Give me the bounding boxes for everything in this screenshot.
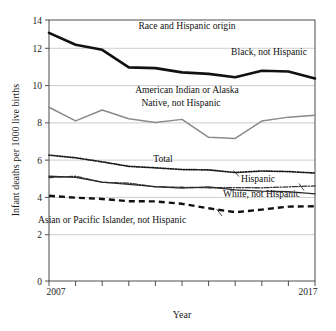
- x-tick-label-first: 2007: [47, 287, 66, 297]
- x-axis-title: Year: [173, 309, 192, 320]
- annotation-black-not-hispanic: Black, not Hispanic: [231, 46, 307, 57]
- y-tick-label-8: 8: [37, 118, 42, 128]
- annotation-asian-pacific-islander: Asian or Pacific Islander, not Hispanic: [38, 214, 186, 225]
- y-tick-label-4: 4: [37, 193, 42, 203]
- chart-canvas: 14 12 10 8 6 4 2 0 2007 2017 Year Infant…: [0, 0, 336, 331]
- annotation-aian-line2: Native, not Hispanic: [141, 97, 220, 108]
- annotation-race-hispanic-origin: Race and Hispanic origin: [138, 20, 235, 31]
- annotation-hispanic: Hispanic: [241, 173, 275, 184]
- y-axis-ticks: [45, 20, 49, 281]
- annotation-white-not-hispanic: White, not Hispanic: [223, 188, 300, 199]
- annotation-total: Total: [153, 153, 173, 164]
- annotation-aian-line1: American Indian or Alaska: [135, 84, 239, 95]
- y-tick-label-2: 2: [37, 230, 42, 240]
- y-tick-label-12: 12: [33, 44, 43, 54]
- y-tick-label-6: 6: [37, 156, 42, 166]
- y-axis-title: Infant deaths per 1000 live births: [10, 84, 21, 217]
- x-tick-label-last: 2017: [299, 287, 318, 297]
- plot-area-background: [49, 20, 315, 281]
- y-tick-label-0: 0: [37, 277, 42, 287]
- y-tick-label-10: 10: [33, 81, 43, 91]
- x-axis-ticks: [49, 281, 315, 286]
- y-tick-label-14: 14: [33, 16, 43, 26]
- infant-mortality-chart-figure: 14 12 10 8 6 4 2 0 2007 2017 Year Infant…: [0, 0, 336, 331]
